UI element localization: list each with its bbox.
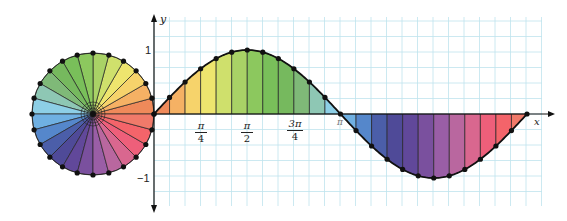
sine-point xyxy=(478,157,483,162)
x-axis-label: x xyxy=(534,117,540,127)
sine-point xyxy=(431,175,436,180)
y-tick-1: 1 xyxy=(145,44,151,56)
x-tick-pi: π xyxy=(337,118,343,127)
sine-point xyxy=(307,79,312,84)
sine-segment xyxy=(216,52,232,114)
sine-point xyxy=(276,56,281,61)
circle-point xyxy=(60,59,65,64)
sine-segment xyxy=(449,114,465,176)
sine-point xyxy=(260,50,265,55)
x-axis-arrow-icon xyxy=(548,111,555,117)
y-tick-neg-1: −1 xyxy=(137,172,150,184)
sine-segment xyxy=(263,52,279,114)
circle-point xyxy=(106,52,111,57)
circle-point xyxy=(75,52,80,57)
sine-point xyxy=(385,157,390,162)
circle-point xyxy=(143,81,148,86)
sine-segment xyxy=(418,114,434,178)
sine-point xyxy=(462,167,467,172)
circle-point xyxy=(143,142,148,147)
y-axis-arrow-up-icon xyxy=(151,14,157,22)
circle-point xyxy=(121,59,126,64)
circle-point xyxy=(75,170,80,175)
sine-point xyxy=(198,66,203,71)
circle-point xyxy=(121,164,126,169)
sine-segment xyxy=(403,114,419,176)
sine-point xyxy=(322,95,327,100)
circle-point xyxy=(90,172,95,177)
sine-point xyxy=(369,143,374,148)
sine-point xyxy=(447,173,452,178)
y-axis-arrow-down-icon xyxy=(151,205,157,213)
sine-point xyxy=(493,143,498,148)
sine-segment xyxy=(434,114,450,178)
sine-point xyxy=(509,128,514,133)
diagram-canvas xyxy=(0,0,567,221)
circle-point xyxy=(31,96,36,101)
sine-point xyxy=(167,95,172,100)
circle-point xyxy=(47,68,52,73)
sine-point xyxy=(353,128,358,133)
sine-segment xyxy=(247,50,263,114)
unit-circle-sine-diagram: y x 1 −1 π 4 π 2 3π 4 π xyxy=(0,0,567,221)
circle-center-dot xyxy=(90,111,96,117)
x-tick-pi-over-2: π 2 xyxy=(241,121,253,144)
circle-point xyxy=(31,127,36,132)
circle-point xyxy=(106,170,111,175)
circle-point xyxy=(60,164,65,169)
sine-point xyxy=(229,50,234,55)
sine-point xyxy=(291,66,296,71)
sine-point xyxy=(400,167,405,172)
sine-point xyxy=(245,47,250,52)
sine-point xyxy=(416,173,421,178)
circle-point xyxy=(134,155,139,160)
y-axis-label: y xyxy=(160,14,166,25)
circle-point xyxy=(134,68,139,73)
circle-point xyxy=(38,81,43,86)
circle-point xyxy=(38,142,43,147)
sine-segment xyxy=(232,50,248,114)
circle-point xyxy=(47,155,52,160)
sine-point xyxy=(214,56,219,61)
x-tick-3pi-over-4: 3π 4 xyxy=(287,119,303,142)
sine-point xyxy=(182,79,187,84)
circle-point xyxy=(90,50,95,55)
x-tick-pi-over-4: π 4 xyxy=(195,121,207,144)
circle-point xyxy=(29,111,34,116)
